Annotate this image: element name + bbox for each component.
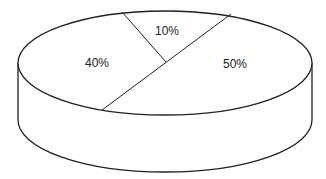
slice-label-10: 10% (155, 24, 179, 38)
slice-label-40: 40% (85, 56, 109, 70)
slice-label-50: 50% (223, 57, 247, 71)
